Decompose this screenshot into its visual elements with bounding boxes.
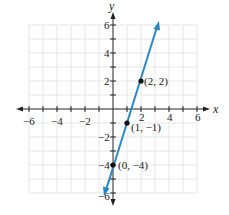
- coordinate-plane: x y −6 −4 −2 2 4 6 6 4 2 −2 −4 −6 (0, −4…: [0, 0, 229, 215]
- x-tick-label: −6: [23, 115, 35, 127]
- y-axis-down-arrow-icon: [111, 199, 116, 206]
- point-label: (0, −4): [118, 159, 148, 172]
- x-tick-label: 6: [195, 111, 201, 123]
- y-axis-label: y: [108, 0, 115, 13]
- x-tick-label: −2: [79, 115, 91, 127]
- point-1-neg1: [124, 120, 129, 125]
- point-2-2: [138, 78, 143, 83]
- x-tick-label: 4: [167, 111, 173, 123]
- y-tick-label: −2: [98, 131, 110, 143]
- x-axis-left-arrow-icon: [16, 107, 23, 112]
- x-axis-right-arrow-icon: [203, 107, 210, 112]
- line-arrow-up-icon: [154, 21, 161, 31]
- y-tick-label: 6: [104, 19, 110, 31]
- y-axis-up-arrow-icon: [111, 12, 116, 19]
- point-0-neg4: [110, 162, 115, 167]
- point-label: (2, 2): [144, 75, 168, 88]
- y-tick-label: 2: [104, 75, 110, 87]
- x-tick-label: −4: [51, 115, 63, 127]
- y-tick-label: 4: [104, 47, 110, 59]
- point-label: (1, −1): [131, 121, 161, 134]
- y-tick-label: −4: [98, 159, 110, 171]
- x-axis-label: x: [212, 102, 219, 116]
